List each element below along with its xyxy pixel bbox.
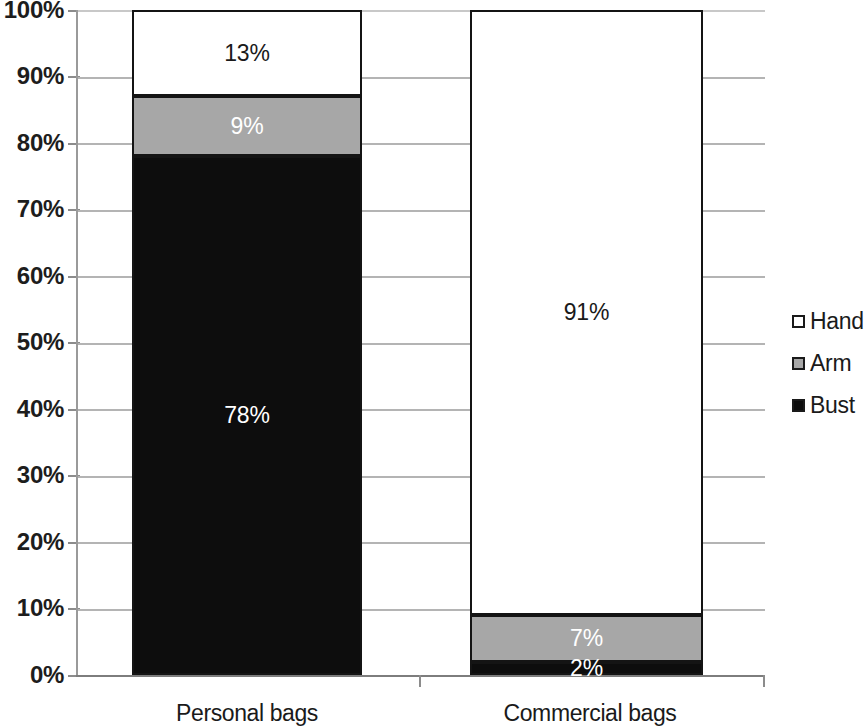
bar-segment-commercial-bust[interactable]: 2% xyxy=(470,662,703,675)
bar-segment-label-commercial-bust: 2% xyxy=(570,657,603,680)
legend-item-hand[interactable]: Hand xyxy=(792,300,865,342)
x-axis-category-divider-tick xyxy=(419,675,421,687)
x-axis-category-label-commercial: Commercial bags xyxy=(504,702,677,725)
legend-item-arm[interactable]: Arm xyxy=(792,342,865,384)
legend: Hand Arm Bust xyxy=(792,300,865,426)
bar-segment-label-personal-arm: 9% xyxy=(231,115,264,138)
legend-item-bust[interactable]: Bust xyxy=(792,384,865,426)
bar-segment-label-personal-bust: 78% xyxy=(224,404,269,427)
plot-area: 13% 9% 78% 91% 7% 2% xyxy=(76,10,765,675)
legend-swatch-bust-icon xyxy=(792,399,805,412)
bar-commercial-bags[interactable]: 91% 7% 2% xyxy=(470,10,703,675)
y-tick-label-70: 70% xyxy=(0,197,64,221)
y-tick-label-50: 50% xyxy=(0,330,64,354)
y-tick-label-30: 30% xyxy=(0,463,64,487)
x-axis-category-label-personal: Personal bags xyxy=(176,702,318,725)
y-tick-label-80: 80% xyxy=(0,131,64,155)
bar-segment-personal-bust[interactable]: 78% xyxy=(132,156,362,675)
y-tick-label-100: 100% xyxy=(0,0,64,22)
legend-swatch-arm-icon xyxy=(792,357,805,370)
y-tick-label-90: 90% xyxy=(0,64,64,88)
legend-label-bust: Bust xyxy=(810,394,855,417)
y-axis: 100% 90% 80% 70% 60% 50% 40% 30% 20% 10%… xyxy=(0,0,64,722)
bar-segment-personal-arm[interactable]: 9% xyxy=(132,96,362,156)
bar-segment-label-personal-hand: 13% xyxy=(224,42,269,65)
legend-label-hand: Hand xyxy=(810,310,864,333)
legend-swatch-hand-icon xyxy=(792,315,805,328)
y-tick-label-0: 0% xyxy=(0,663,64,687)
bar-segment-personal-hand[interactable]: 13% xyxy=(132,10,362,96)
bar-segment-label-commercial-hand: 91% xyxy=(564,301,609,324)
bar-segment-label-commercial-arm: 7% xyxy=(570,627,603,650)
bar-segment-commercial-hand[interactable]: 91% xyxy=(470,10,703,615)
bar-personal-bags[interactable]: 13% 9% 78% xyxy=(132,10,362,675)
legend-label-arm: Arm xyxy=(810,352,851,375)
y-tick-label-10: 10% xyxy=(0,596,64,620)
y-tick-label-60: 60% xyxy=(0,264,64,288)
x-axis-end-tick xyxy=(763,675,765,687)
y-tick-label-40: 40% xyxy=(0,397,64,421)
y-axis-line xyxy=(76,10,78,675)
y-tick-label-20: 20% xyxy=(0,530,64,554)
